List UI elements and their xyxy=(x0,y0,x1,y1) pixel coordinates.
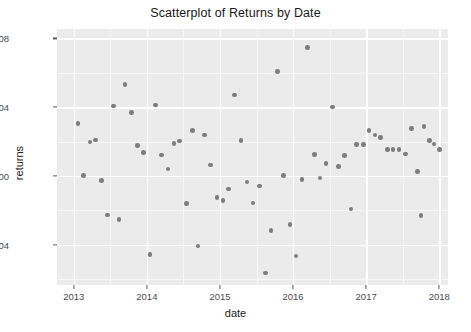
gridline-minor-vertical xyxy=(110,29,111,285)
scatter-point xyxy=(166,167,171,172)
scatter-point xyxy=(397,147,402,152)
gridline-minor-vertical xyxy=(330,29,331,285)
x-axis-tick-mark xyxy=(73,285,74,289)
scatter-point xyxy=(275,69,280,74)
scatter-point xyxy=(419,213,424,218)
y-axis-tick-mark xyxy=(53,244,57,245)
x-axis-tick-label: 2016 xyxy=(282,291,303,302)
scatter-point xyxy=(226,187,231,192)
scatter-point xyxy=(324,161,329,166)
gridline-major-vertical xyxy=(293,29,294,285)
y-axis-tick-label: 0.08 xyxy=(0,33,9,44)
plot-panel xyxy=(57,29,448,285)
scatter-point xyxy=(305,45,310,50)
scatter-point xyxy=(177,139,182,144)
scatter-point xyxy=(330,105,335,110)
scatter-point xyxy=(159,153,164,158)
scatter-point xyxy=(318,176,323,181)
scatter-point xyxy=(354,142,359,147)
scatter-point xyxy=(391,147,396,152)
y-axis-tick-label: 0.04 xyxy=(0,102,9,113)
scatter-point xyxy=(342,153,347,158)
scatter-point xyxy=(135,143,140,148)
scatter-point xyxy=(81,173,86,178)
scatter-point xyxy=(232,93,237,98)
scatter-point xyxy=(422,124,427,129)
scatter-point xyxy=(202,133,207,138)
scatter-point xyxy=(196,244,201,249)
x-axis-tick-label: 2017 xyxy=(356,291,377,302)
y-axis-tick-mark xyxy=(53,107,57,108)
scatter-point xyxy=(141,150,146,155)
scatter-point xyxy=(190,128,195,133)
gridline-major-vertical xyxy=(74,29,75,285)
gridline-major-vertical xyxy=(439,29,440,285)
y-axis-tick-mark xyxy=(53,38,57,39)
x-axis-tick-label: 2014 xyxy=(136,291,157,302)
scatter-point xyxy=(76,121,81,126)
scatter-point xyxy=(263,271,268,276)
scatter-point xyxy=(215,195,220,200)
scatter-point xyxy=(117,217,122,222)
x-axis-label: date xyxy=(0,307,471,319)
scatter-point xyxy=(105,213,110,218)
x-axis-tick-mark xyxy=(439,285,440,289)
scatter-point xyxy=(361,142,366,147)
scatter-point xyxy=(88,140,93,145)
scatter-point xyxy=(148,252,153,257)
scatter-point xyxy=(378,135,383,140)
scatter-point xyxy=(300,177,305,182)
gridline-minor-vertical xyxy=(403,29,404,285)
scatter-point xyxy=(281,173,286,178)
gridline-major-horizontal xyxy=(57,245,448,246)
scatter-point xyxy=(288,222,293,227)
x-axis-tick-label: 2013 xyxy=(63,291,84,302)
scatter-point xyxy=(111,104,116,109)
scatter-point xyxy=(257,184,262,189)
scatter-point xyxy=(245,180,250,185)
gridline-minor-vertical xyxy=(257,29,258,285)
scatter-point xyxy=(221,198,226,203)
gridline-minor-horizontal xyxy=(57,142,448,143)
scatter-point xyxy=(99,178,104,183)
x-axis-tick-mark xyxy=(219,285,220,289)
scatter-point xyxy=(403,152,408,157)
gridline-minor-horizontal xyxy=(57,279,448,280)
gridline-minor-horizontal xyxy=(57,210,448,211)
scatter-point xyxy=(415,169,420,174)
gridline-major-horizontal xyxy=(57,38,448,39)
scatter-point xyxy=(184,201,189,206)
gridline-major-vertical xyxy=(220,29,221,285)
y-axis-tick-label: 0.00 xyxy=(0,170,9,181)
scatter-point xyxy=(373,133,378,138)
gridline-major-vertical xyxy=(366,29,367,285)
x-axis-tick-label: 2015 xyxy=(209,291,230,302)
scatter-point xyxy=(251,201,256,206)
scatter-point xyxy=(129,110,134,115)
scatter-point xyxy=(432,142,437,147)
scatter-point xyxy=(269,228,274,233)
scatter-point xyxy=(294,254,299,259)
scatter-point xyxy=(312,152,317,157)
scatter-point xyxy=(208,163,213,168)
scatter-point xyxy=(385,147,390,152)
y-axis-label: returns xyxy=(13,103,25,223)
gridline-minor-horizontal xyxy=(57,73,448,74)
gridline-major-horizontal xyxy=(57,107,448,108)
scatterplot-figure: Scatterplot of Returns by Date 0.080.040… xyxy=(0,0,471,332)
x-axis-tick-label: 2018 xyxy=(429,291,450,302)
gridline-minor-vertical xyxy=(183,29,184,285)
chart-title: Scatterplot of Returns by Date xyxy=(0,6,471,20)
y-axis-tick-label: -0.04 xyxy=(0,239,9,250)
scatter-point xyxy=(427,138,432,143)
scatter-point xyxy=(123,82,128,87)
gridline-major-horizontal xyxy=(57,176,448,177)
x-axis-tick-mark xyxy=(366,285,367,289)
x-axis-tick-mark xyxy=(146,285,147,289)
scatter-point xyxy=(336,164,341,169)
scatter-point xyxy=(409,126,414,131)
x-axis-tick-mark xyxy=(292,285,293,289)
gridline-major-vertical xyxy=(147,29,148,285)
y-axis-tick-mark xyxy=(53,175,57,176)
scatter-point xyxy=(437,147,442,152)
